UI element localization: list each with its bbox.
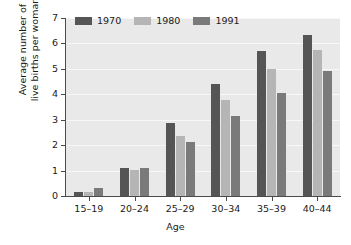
legend-label: 1980	[156, 16, 180, 26]
bar-chart-figure: Average number of live births per woman …	[0, 0, 351, 245]
y-axis-tick-label: 0	[52, 191, 58, 201]
legend-item: 1980	[134, 16, 180, 26]
bar	[267, 69, 276, 196]
y-axis-tick	[61, 43, 65, 44]
x-axis-title: Age	[0, 221, 351, 232]
legend-label: 1970	[97, 16, 121, 26]
x-axis-tick	[89, 197, 90, 201]
bar	[186, 142, 195, 196]
y-axis-tick-label: 3	[52, 115, 58, 125]
gridline	[66, 120, 340, 121]
y-axis-title-line-2: live births per woman	[28, 0, 40, 130]
bar	[211, 84, 220, 196]
bar	[130, 170, 139, 196]
y-axis-tick	[61, 18, 65, 19]
bar	[257, 51, 266, 196]
x-axis-tick	[272, 197, 273, 201]
legend-item: 1991	[193, 16, 239, 26]
x-axis-tick-label: 25–29	[155, 203, 205, 214]
legend-item: 1970	[75, 16, 121, 26]
x-axis-line	[65, 196, 341, 197]
bar	[313, 50, 322, 196]
y-axis-title-line-1: Average number of	[17, 0, 29, 130]
y-axis-tick-label: 7	[52, 13, 58, 23]
legend-swatch-icon	[134, 17, 151, 25]
bar	[140, 168, 149, 196]
bar	[323, 71, 332, 196]
x-axis-tick	[317, 197, 318, 201]
gridline	[66, 94, 340, 95]
x-axis-tick-label: 15–19	[64, 203, 114, 214]
bar	[277, 93, 286, 196]
y-axis-tick	[61, 120, 65, 121]
x-axis-tick-label: 30–34	[201, 203, 251, 214]
gridline	[66, 43, 340, 44]
y-axis-line	[65, 18, 66, 197]
y-axis-tick	[61, 145, 65, 146]
y-axis-tick-label: 6	[52, 38, 58, 48]
y-axis-tick-label: 2	[52, 140, 58, 150]
x-axis-tick	[180, 197, 181, 201]
bar	[231, 116, 240, 196]
legend-swatch-icon	[193, 17, 210, 25]
bar	[94, 188, 103, 196]
plot-area	[66, 18, 340, 196]
x-axis-tick-label: 20–24	[110, 203, 160, 214]
x-axis-tick-label: 40–44	[292, 203, 342, 214]
bar	[176, 136, 185, 196]
legend-label: 1991	[215, 16, 239, 26]
y-axis-title: Average number of live births per woman	[17, 0, 40, 130]
y-axis-tick	[61, 171, 65, 172]
bar	[303, 35, 312, 196]
gridline	[66, 145, 340, 146]
y-axis-tick-label: 4	[52, 89, 58, 99]
y-axis-tick-label: 5	[52, 64, 58, 74]
gridline	[66, 69, 340, 70]
legend-swatch-icon	[75, 17, 92, 25]
bar	[120, 168, 129, 196]
chart-legend: 197019801991	[75, 16, 240, 26]
bar	[221, 100, 230, 196]
bar	[166, 123, 175, 196]
y-axis-tick	[61, 94, 65, 95]
gridline	[66, 171, 340, 172]
y-axis-tick-label: 1	[52, 166, 58, 176]
x-axis-tick	[135, 197, 136, 201]
x-axis-tick	[226, 197, 227, 201]
x-axis-tick-label: 35–39	[247, 203, 297, 214]
y-axis-tick	[61, 196, 65, 197]
y-axis-tick	[61, 69, 65, 70]
